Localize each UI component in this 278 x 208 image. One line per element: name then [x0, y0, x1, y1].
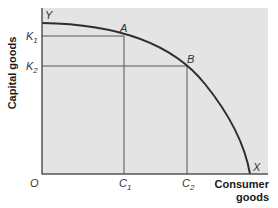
k2-label: K2	[26, 60, 38, 75]
y-axis-title: Capital goods	[6, 37, 18, 110]
plot-area	[42, 8, 268, 174]
curve-end-label: X	[252, 161, 261, 173]
c2-label: C2	[182, 177, 195, 192]
ppc-chart: Y X A B K1 K2 O C1 C2 Capital goods Cons…	[0, 0, 278, 208]
k1-label: K1	[26, 30, 38, 45]
curve-start-label: Y	[45, 9, 53, 21]
x-axis-title-line1: Consumer	[215, 178, 270, 190]
origin-label: O	[30, 177, 39, 189]
x-axis-title-line2: goods	[236, 191, 269, 203]
point-a-label: A	[119, 22, 127, 34]
point-b-label: B	[187, 53, 194, 65]
c1-label: C1	[119, 177, 131, 192]
